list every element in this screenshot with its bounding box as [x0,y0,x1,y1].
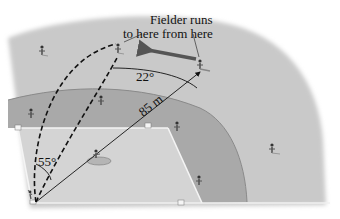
angle-label-55: 55° [38,154,56,169]
caption-line-1: Fielder runs [150,12,212,27]
angle-label-22: 22° [136,69,154,84]
first-base [178,200,184,205]
third-base [15,125,21,130]
diagram-canvas: Fielder runs to here from here 22° 55° 8… [0,0,340,219]
baseball-diagram: Fielder runs to here from here 22° 55° 8… [0,0,340,219]
second-base [145,123,151,128]
caption-line-2: to here from here [123,26,213,41]
